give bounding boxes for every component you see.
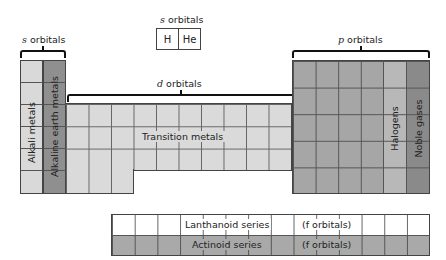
noble-gases-label: Noble gases: [413, 94, 424, 164]
actinoid-series-row: [111, 235, 430, 256]
p-orbitals-label: p orbitals: [338, 34, 383, 45]
s-orbitals-text: orbitals: [165, 14, 204, 25]
actinoid-label: Actinoid series: [190, 239, 264, 250]
p-orbitals-text: orbitals: [344, 34, 383, 45]
hydrogen-cell: H: [156, 28, 179, 50]
transition-metals-lower: [66, 169, 134, 194]
hydrogen-symbol: H: [164, 34, 172, 45]
s-orbitals-label-left: s orbitals: [22, 34, 65, 45]
transition-metals-label: Transition metals: [140, 131, 225, 142]
d-orbitals-brace: [67, 94, 295, 102]
p-orbitals-brace: [292, 50, 430, 58]
d-orbitals-text: orbitals: [163, 78, 202, 89]
s-orbitals-text: orbitals: [27, 34, 66, 45]
alkali-metals-label: Alkali metals: [26, 93, 37, 173]
s-orbitals-brace: [20, 50, 66, 58]
actinoid-f-orbitals-note: (f orbitals): [300, 239, 353, 250]
helium-symbol: He: [183, 34, 197, 45]
cell: [21, 61, 43, 83]
alkaline-earth-metals-label: Alkaline earth metals: [49, 62, 60, 192]
brace-tip: [180, 90, 182, 95]
d-orbitals-label: d orbitals: [157, 78, 202, 89]
p-block: [292, 60, 383, 194]
brace-tip: [360, 46, 362, 51]
brace-tip: [42, 46, 44, 51]
helium-cell: He: [178, 28, 201, 50]
lanthanoid-label: Lanthanoid series: [183, 219, 271, 230]
s-orbitals-label-top: s orbitals: [160, 14, 203, 25]
lanthanoid-f-orbitals-note: (f orbitals): [300, 219, 353, 230]
halogens-label: Halogens: [389, 99, 400, 159]
